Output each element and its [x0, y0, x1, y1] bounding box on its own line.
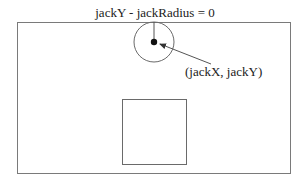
top-label: jackY - jackRadius = 0 — [94, 5, 214, 20]
diagram-canvas: jackY - jackRadius = 0 (jackX, jackY) — [0, 0, 306, 182]
center-label: (jackX, jackY) — [185, 64, 262, 79]
center-point — [151, 39, 157, 45]
box-square — [123, 100, 187, 165]
pointer-arrow — [160, 44, 211, 64]
